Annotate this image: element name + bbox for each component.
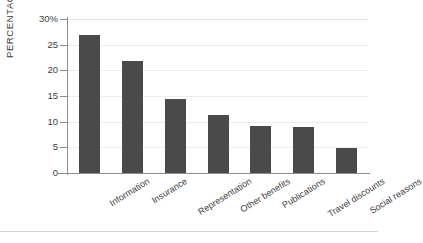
x-axis-tick-label: Information (108, 176, 151, 208)
x-axis-tick-labels: InformationInsuranceRepresentationOther … (0, 176, 378, 236)
bar (208, 115, 229, 173)
y-axis-tick-mark (60, 70, 68, 71)
y-axis-tick-mark (60, 147, 68, 148)
y-axis-tick-label: 5 (18, 141, 58, 152)
bar (79, 35, 100, 173)
bar (122, 61, 143, 173)
bar (293, 127, 314, 173)
y-axis-tick-mark (60, 122, 68, 123)
bar (165, 99, 186, 173)
bar (336, 148, 357, 173)
chart-title (0, 0, 378, 4)
y-axis-tick-label: 30% (18, 13, 58, 24)
y-axis-tick-mark (60, 173, 68, 174)
x-axis-tick-label: Insurance (150, 176, 189, 205)
y-axis-tick-mark (60, 96, 68, 97)
y-axis-tick-mark (60, 45, 68, 46)
gridline (68, 19, 368, 20)
page-divider (0, 231, 378, 232)
y-axis-tick-mark (60, 19, 68, 20)
x-axis-line (58, 173, 370, 174)
y-axis-tick-label: 10 (18, 116, 58, 127)
gridline (68, 45, 368, 46)
y-axis-tick-label: 25 (18, 39, 58, 50)
bar (250, 126, 271, 173)
gridline (68, 96, 368, 97)
y-axis-tick-label: 20 (18, 64, 58, 75)
gridline (68, 70, 368, 71)
y-axis-tick-label: 15 (18, 90, 58, 101)
plot-area (68, 19, 368, 173)
y-axis-tick-labels: 051015202530% (14, 19, 58, 173)
